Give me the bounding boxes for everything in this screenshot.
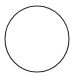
circle-outline-icon [5, 6, 69, 72]
drawing-canvas: Circle outline drawing [0, 0, 75, 81]
shape-layer [0, 0, 75, 81]
